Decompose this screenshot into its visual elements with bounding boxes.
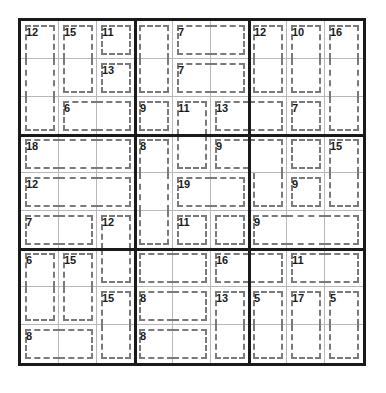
cage-sum-label: 15 bbox=[64, 255, 76, 266]
cage-sum-label: 8 bbox=[26, 331, 32, 342]
cage-outline bbox=[101, 249, 131, 283]
cage-sum-label: 11 bbox=[178, 217, 190, 228]
cage-sum-label: 17 bbox=[292, 293, 304, 304]
cage-sum-label: 12 bbox=[102, 217, 114, 228]
cage-outline bbox=[329, 59, 359, 97]
cage-outline bbox=[25, 59, 55, 97]
cage-outline bbox=[59, 139, 97, 169]
cage-sum-label: 6 bbox=[64, 103, 70, 114]
cage-outline bbox=[329, 173, 359, 207]
cage-sum-label: 10 bbox=[292, 27, 304, 38]
cage-sum-label: 6 bbox=[26, 255, 32, 266]
cage-outline bbox=[139, 211, 169, 245]
cage-outline bbox=[253, 325, 283, 359]
cage-outline bbox=[59, 329, 93, 359]
box-divider-horizontal bbox=[21, 248, 363, 251]
cage-sum-label: 16 bbox=[330, 27, 342, 38]
cage-sum-label: 13 bbox=[216, 293, 228, 304]
cage-sum-label: 8 bbox=[140, 331, 146, 342]
cage-sum-label: 7 bbox=[178, 27, 184, 38]
cage-outline bbox=[59, 177, 97, 207]
cage-sum-label: 8 bbox=[140, 141, 146, 152]
cage-outline bbox=[253, 173, 283, 207]
cage-outline bbox=[139, 253, 173, 283]
cage-outline bbox=[249, 101, 283, 131]
killer-sudoku-board: 1215111367791113121016718127128191191599… bbox=[18, 18, 366, 366]
cage-outline bbox=[249, 253, 283, 283]
cage-sum-label: 18 bbox=[26, 141, 38, 152]
cage-outline bbox=[101, 325, 131, 359]
box-divider-vertical bbox=[134, 21, 137, 363]
cage-outline bbox=[329, 325, 359, 359]
cage-outline bbox=[25, 97, 55, 131]
cage-outline bbox=[325, 253, 359, 283]
cage-sum-label: 11 bbox=[178, 103, 190, 114]
cage-sum-label: 11 bbox=[102, 27, 114, 38]
cage-outline bbox=[97, 101, 131, 131]
cage-sum-label: 13 bbox=[216, 103, 228, 114]
box-divider-horizontal bbox=[21, 134, 363, 137]
cage-outline bbox=[139, 25, 169, 59]
cage-outline bbox=[287, 215, 325, 245]
cage-outline bbox=[97, 177, 131, 207]
cage-outline bbox=[291, 59, 321, 93]
cage-sum-label: 15 bbox=[102, 293, 114, 304]
cage-outline bbox=[215, 325, 245, 359]
cage-sum-label: 16 bbox=[216, 255, 228, 266]
cage-sum-label: 12 bbox=[26, 27, 38, 38]
cage-outline bbox=[25, 287, 55, 321]
cage-outline bbox=[97, 139, 131, 169]
cage-sum-label: 7 bbox=[178, 65, 184, 76]
cage-outline bbox=[173, 329, 207, 359]
cage-outline bbox=[63, 287, 93, 321]
cage-sum-label: 5 bbox=[330, 293, 336, 304]
cage-sum-label: 15 bbox=[330, 141, 342, 152]
cage-outline bbox=[139, 173, 169, 211]
cage-sum-label: 11 bbox=[292, 255, 304, 266]
cage-sum-label: 13 bbox=[102, 65, 114, 76]
cage-sum-label: 5 bbox=[254, 293, 260, 304]
cage-sum-label: 12 bbox=[26, 179, 38, 190]
cage-outline bbox=[59, 215, 93, 245]
cage-outline bbox=[249, 139, 283, 173]
cage-outline bbox=[211, 25, 245, 55]
cage-sum-label: 9 bbox=[216, 141, 222, 152]
cage-outline bbox=[329, 97, 359, 131]
box-divider-vertical bbox=[248, 21, 251, 363]
cage-outline bbox=[291, 139, 321, 169]
cage-sum-label: 9 bbox=[292, 179, 298, 190]
cage-outline bbox=[211, 63, 245, 93]
cage-sum-label: 9 bbox=[140, 103, 146, 114]
cage-outline bbox=[63, 59, 93, 93]
cage-outline bbox=[211, 177, 245, 207]
cage-sum-label: 12 bbox=[254, 27, 266, 38]
cage-sum-label: 19 bbox=[178, 179, 190, 190]
cage-outline bbox=[215, 215, 245, 245]
cage-sum-label: 7 bbox=[26, 217, 32, 228]
cage-outline bbox=[173, 253, 207, 283]
cage-outline bbox=[253, 59, 283, 93]
cage-outline bbox=[173, 291, 207, 321]
cage-outline bbox=[177, 135, 207, 169]
cage-sum-label: 9 bbox=[254, 217, 260, 228]
cage-sum-label: 8 bbox=[140, 293, 146, 304]
cage-sum-label: 7 bbox=[292, 103, 298, 114]
cage-outline bbox=[139, 59, 169, 93]
cage-outline bbox=[291, 325, 321, 359]
cage-outline bbox=[325, 215, 359, 245]
cage-sum-label: 15 bbox=[64, 27, 76, 38]
